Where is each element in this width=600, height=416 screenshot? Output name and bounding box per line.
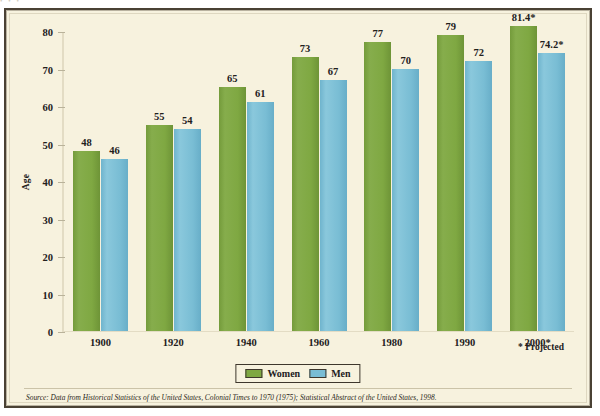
x-axis-tick-label: 1900 xyxy=(90,337,111,348)
legend-label: Men xyxy=(331,368,350,379)
bar-women-1990[interactable]: 79 xyxy=(437,35,464,331)
projected-footnote: * Projected xyxy=(518,342,564,352)
bar-group: 79721990 xyxy=(428,32,501,331)
bar-women-2000[interactable]: 81.4* xyxy=(510,26,537,331)
legend-swatch-women xyxy=(245,369,262,378)
bar-value-label: 48 xyxy=(81,137,92,148)
y-axis-tick-label: 20 xyxy=(43,252,54,263)
bar-men-1990[interactable]: 72 xyxy=(465,61,492,331)
bar-men-1900[interactable]: 46 xyxy=(101,159,128,332)
x-axis-tick-label: 1990 xyxy=(454,337,475,348)
x-axis-tick-label: 1920 xyxy=(163,337,184,348)
bar-women-1920[interactable]: 55 xyxy=(146,125,173,331)
bar-value-label: 81.4* xyxy=(512,12,536,23)
y-axis-tick-label: 0 xyxy=(48,327,53,338)
y-axis-title: Age xyxy=(21,174,31,191)
source-divider xyxy=(24,388,572,389)
figure-frame: Age 01020304050607080 484619005554192065… xyxy=(4,8,592,408)
bar-value-label: 73 xyxy=(300,43,311,54)
bar-value-label: 70 xyxy=(401,55,412,66)
bar-group: 48461900 xyxy=(64,32,137,331)
y-axis-tick-label: 40 xyxy=(43,177,54,188)
bar-value-label: 74.2* xyxy=(540,39,564,50)
bar-value-label: 72 xyxy=(473,47,484,58)
source-note: Source: Data from Historical Statistics … xyxy=(26,393,437,402)
bar-women-1900[interactable]: 48 xyxy=(73,151,100,331)
bar-men-1960[interactable]: 67 xyxy=(320,80,347,331)
bar-groups: 4846190055541920656119407367196077701980… xyxy=(64,32,574,331)
y-axis-tick-label: 80 xyxy=(43,27,54,38)
scan-edge-text: • • • xyxy=(0,0,21,5)
bar-group: 77701980 xyxy=(355,32,428,331)
bar-value-label: 46 xyxy=(109,145,120,156)
y-axis-tick-label: 30 xyxy=(43,214,54,225)
bar-value-label: 67 xyxy=(328,66,339,77)
bar-women-1980[interactable]: 77 xyxy=(364,42,391,331)
x-axis-tick-label: 1980 xyxy=(381,337,402,348)
legend-item-women[interactable]: Women xyxy=(245,368,300,379)
scan-edge-artifact: • • • xyxy=(0,0,600,7)
y-axis-tick xyxy=(58,332,65,333)
y-axis-tick-label: 10 xyxy=(43,289,54,300)
x-axis-tick-label: 1960 xyxy=(309,337,330,348)
y-axis-tick-label: 50 xyxy=(43,139,54,150)
plot-area: Age 01020304050607080 484619005554192065… xyxy=(62,32,574,332)
bar-group: 65611940 xyxy=(210,32,283,331)
bar-group: 73671960 xyxy=(283,32,356,331)
legend-label: Women xyxy=(267,368,300,379)
y-axis-tick-label: 70 xyxy=(43,64,54,75)
bar-value-label: 79 xyxy=(445,21,456,32)
bar-value-label: 55 xyxy=(154,111,165,122)
x-axis-line xyxy=(62,331,574,332)
bar-group: 55541920 xyxy=(137,32,210,331)
bar-value-label: 77 xyxy=(373,28,384,39)
legend-swatch-men xyxy=(309,369,326,378)
legend-item-men[interactable]: Men xyxy=(309,368,350,379)
chart-legend: WomenMen xyxy=(235,364,360,383)
bar-group: 81.4*74.2*2000* xyxy=(501,32,574,331)
y-axis-tick-label: 60 xyxy=(43,102,54,113)
bar-men-1940[interactable]: 61 xyxy=(247,102,274,331)
bar-women-1960[interactable]: 73 xyxy=(292,57,319,331)
x-axis-tick-label: 1940 xyxy=(236,337,257,348)
bar-value-label: 61 xyxy=(255,88,266,99)
bar-men-2000[interactable]: 74.2* xyxy=(538,53,565,331)
bar-value-label: 54 xyxy=(182,115,193,126)
bar-women-1940[interactable]: 65 xyxy=(219,87,246,331)
bar-men-1980[interactable]: 70 xyxy=(392,69,419,332)
bar-men-1920[interactable]: 54 xyxy=(174,129,201,332)
figure-inner-border: Age 01020304050607080 484619005554192065… xyxy=(9,13,587,403)
bar-value-label: 65 xyxy=(227,73,238,84)
